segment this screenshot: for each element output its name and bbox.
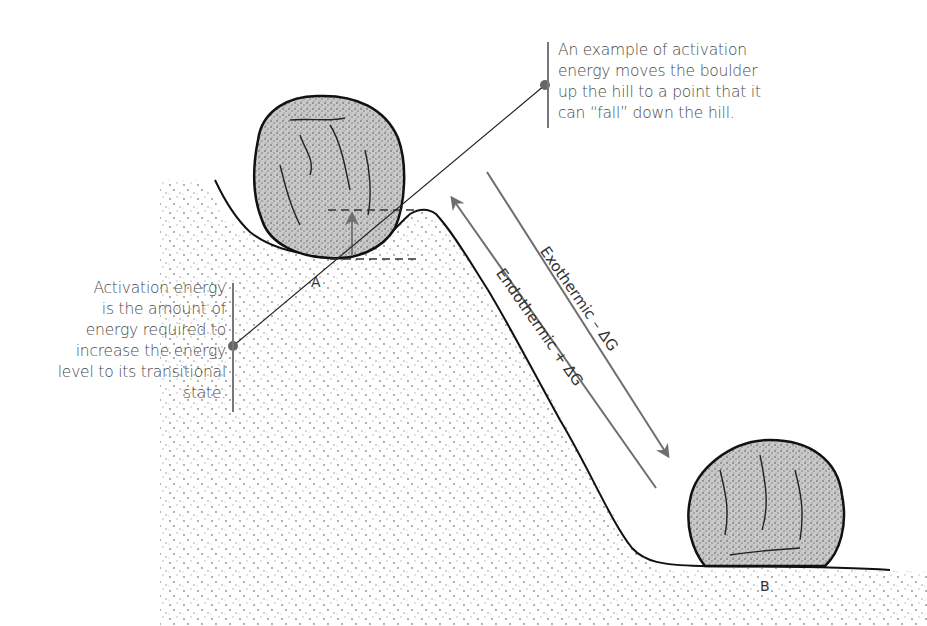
callout-top-line: can “fall” down the hill.: [558, 103, 798, 124]
callout-top-line: An example of activation: [558, 40, 798, 61]
callout-activation-definition: Activation energy is the amount of energ…: [30, 278, 226, 404]
point-label-a: A: [311, 274, 321, 290]
callout-top-line: up the hill to a point that it: [558, 82, 798, 103]
point-label-b: B: [760, 578, 770, 594]
boulder-b: [688, 440, 844, 566]
callout-left-line: Activation energy: [30, 278, 226, 299]
callout-left-line: state.: [30, 383, 226, 404]
boulder-a: [254, 96, 404, 258]
callout-left-line: energy required to: [30, 320, 226, 341]
callout-activation-example: An example of activation energy moves th…: [558, 40, 798, 124]
callout-left-line: level to its transitional: [30, 362, 226, 383]
callout-top-line: energy moves the boulder: [558, 61, 798, 82]
callout-left-line: increase the energy: [30, 341, 226, 362]
callout-left-line: is the amount of: [30, 299, 226, 320]
